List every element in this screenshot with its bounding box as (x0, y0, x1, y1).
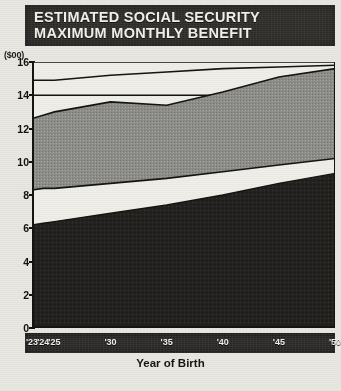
x-tick-label: '50 (329, 337, 341, 347)
chart-page: ESTIMATED SOCIAL SECURITY MAXIMUM MONTHL… (0, 0, 341, 391)
chart-title-block: ESTIMATED SOCIAL SECURITY MAXIMUM MONTHL… (25, 5, 335, 46)
x-tick-label: '40 (217, 337, 229, 347)
chart-title-line-1: ESTIMATED SOCIAL SECURITY (34, 9, 260, 25)
x-axis-strip: '23'24'25'30'35'40'45'50 (25, 333, 335, 353)
chart-title-line-2: MAXIMUM MONTHLY BENEFIT (34, 25, 252, 41)
x-tick-label: '25 (48, 337, 60, 347)
x-axis-title: Year of Birth (0, 357, 341, 369)
x-tick-label: '45 (273, 337, 285, 347)
x-tick-label: '35 (161, 337, 173, 347)
plot-area (32, 62, 335, 328)
x-axis-texture (25, 333, 335, 353)
x-tick-label: '30 (104, 337, 116, 347)
plot-frame (32, 62, 335, 328)
